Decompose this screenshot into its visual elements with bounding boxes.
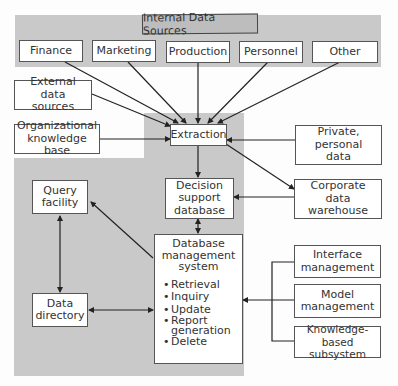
extraction: Extraction <box>170 124 227 146</box>
source-production: Production <box>166 41 230 63</box>
dbms-function-inquiry: Inquiry <box>163 291 242 304</box>
dbms-function-report-generation: Report generation <box>163 316 242 336</box>
model-management: Model management <box>294 284 381 318</box>
dbms-function-delete: Delete <box>163 336 242 349</box>
source-other: Other <box>312 41 378 63</box>
query-facility: Query facility <box>32 180 88 214</box>
interface-management: Interface management <box>294 245 381 278</box>
decision-support-database: Decision support database <box>165 178 234 219</box>
external-data-sources: External data sources <box>14 80 92 110</box>
source-finance: Finance <box>19 40 83 62</box>
dbms-function-list: Retrieval Inquiry Update Report generati… <box>155 279 242 349</box>
knowledge-based-subsystem: Knowledge-based subsystem <box>294 326 381 358</box>
source-marketing: Marketing <box>92 40 156 62</box>
private-personal-data: Private, personal data <box>295 125 382 165</box>
dbms-title: Database management system <box>154 238 244 273</box>
source-personnel: Personnel <box>239 41 303 63</box>
dss-diagram: Internal Data Sources Finance Marketing … <box>0 0 398 386</box>
organizational-knowledge-base: Organizational knowledge base <box>14 124 100 154</box>
internal-data-sources-title: Internal Data Sources <box>142 13 258 34</box>
corporate-data-warehouse: Corporate data warehouse <box>294 179 382 219</box>
database-management-system: Database management system Retrieval Inq… <box>154 234 243 364</box>
data-directory: Data directory <box>32 293 88 327</box>
